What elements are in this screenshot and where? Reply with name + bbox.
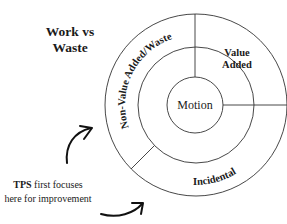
arrow-lower-icon	[101, 203, 143, 216]
annotation-line-1: TPS first focuses	[13, 179, 83, 190]
annotation-rest: first focuses	[32, 179, 83, 190]
value-added-label-line-2: Added	[222, 59, 252, 70]
incidental-label: Incidental	[193, 165, 238, 187]
divider-lower-left	[131, 146, 154, 169]
work-vs-waste-diagram: Work vs Waste Motion Value Added Non-Val…	[0, 0, 287, 224]
annotation-line-2: here for improvement	[4, 193, 91, 204]
center-label-motion: Motion	[177, 98, 212, 112]
value-added-label-line-1: Value	[224, 47, 250, 58]
arrow-upper-icon	[67, 126, 92, 163]
non-value-added-label: Non-Value Added/Waste	[116, 30, 173, 130]
annotation-bold: TPS	[13, 179, 32, 190]
title-line-2: Waste	[52, 40, 87, 55]
title-line-1: Work vs	[46, 24, 94, 39]
